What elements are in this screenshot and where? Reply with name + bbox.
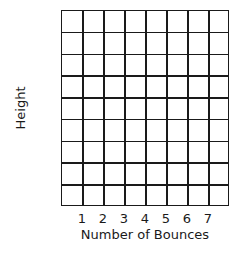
y-axis-title: Height: [13, 87, 28, 130]
grid-horizontal-line: [62, 119, 228, 121]
grid-vertical-line: [166, 11, 168, 205]
grid-vertical-line: [103, 11, 105, 205]
grid-horizontal-line: [62, 162, 228, 164]
grid-horizontal-line: [62, 54, 228, 56]
grid-horizontal-line: [62, 141, 228, 143]
x-tick-label: 2: [99, 212, 107, 225]
grid-vertical-line: [187, 11, 189, 205]
x-axis-title: Number of Bounces: [81, 227, 209, 242]
grid-vertical-line: [124, 11, 126, 205]
x-tick-label: 4: [141, 212, 149, 225]
x-tick-label: 3: [120, 212, 128, 225]
graph-grid: [61, 10, 229, 206]
grid-horizontal-line: [62, 75, 228, 77]
grid-horizontal-line: [62, 32, 228, 34]
x-tick-label: 7: [204, 212, 212, 225]
x-tick-label: 1: [78, 212, 86, 225]
grid-horizontal-line: [62, 97, 228, 99]
grid-vertical-line: [208, 11, 210, 205]
grid-vertical-line: [145, 11, 147, 205]
x-tick-label: 5: [162, 212, 170, 225]
x-tick-label: 6: [183, 212, 191, 225]
grid-vertical-line: [82, 11, 84, 205]
grid-horizontal-line: [62, 184, 228, 186]
